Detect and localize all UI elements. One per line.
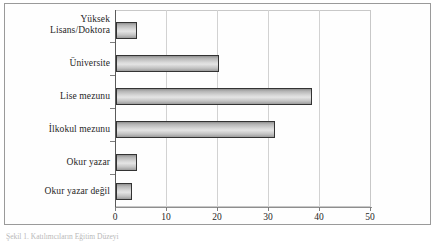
plot-area bbox=[115, 10, 371, 207]
x-axis-label-40: 40 bbox=[304, 212, 334, 222]
category-label-lise-mezunu: Lise mezunu bbox=[2, 91, 110, 102]
y-axis-tick bbox=[110, 141, 115, 142]
category-label-okur-yazar: Okur yazar bbox=[2, 157, 110, 168]
category-label-okur-yazar-degil: Okur yazar değil bbox=[2, 186, 110, 197]
gridline-10 bbox=[166, 10, 167, 207]
y-axis-tick bbox=[110, 75, 115, 76]
x-axis-label-10: 10 bbox=[151, 212, 181, 222]
x-axis-label-30: 30 bbox=[253, 212, 283, 222]
chart-page: Yüksek Lisans/Doktora Üniversite Lise me… bbox=[0, 0, 439, 247]
gridline-30 bbox=[268, 10, 269, 207]
y-axis-tick bbox=[110, 42, 115, 43]
x-axis-tick bbox=[268, 207, 269, 211]
y-axis-tick bbox=[110, 174, 115, 175]
y-axis-line bbox=[115, 10, 116, 208]
bar-universite bbox=[116, 55, 219, 72]
gridline-40 bbox=[319, 10, 320, 207]
bar-yuksek-lisans-doktora bbox=[116, 22, 137, 39]
horizontal-bar-chart: Yüksek Lisans/Doktora Üniversite Lise me… bbox=[0, 0, 439, 247]
x-axis-tick bbox=[319, 207, 320, 211]
x-axis-line bbox=[115, 207, 372, 208]
bar-okur-yazar bbox=[116, 154, 137, 171]
bar-lise-mezunu bbox=[116, 88, 312, 105]
x-axis-tick bbox=[217, 207, 218, 211]
y-axis-tick bbox=[110, 108, 115, 109]
category-label-ilkokul-mezunu: İlkokul mezunu bbox=[2, 124, 110, 135]
x-axis-tick bbox=[166, 207, 167, 211]
category-label-yuksek-lisans-doktora: Yüksek Lisans/Doktora bbox=[2, 14, 110, 36]
category-label-universite: Üniversite bbox=[2, 58, 110, 69]
gridline-20 bbox=[217, 10, 218, 207]
bar-ilkokul-mezunu bbox=[116, 121, 275, 138]
x-axis-tick bbox=[370, 207, 371, 211]
x-axis-label-20: 20 bbox=[202, 212, 232, 222]
x-axis-label-50: 50 bbox=[355, 212, 385, 222]
x-axis-label-0: 0 bbox=[100, 212, 130, 222]
bar-okur-yazar-degil bbox=[116, 183, 132, 200]
x-axis-tick bbox=[115, 207, 116, 211]
figure-caption: Şekil 1. Katılımcıların Eğitim Düzeyi bbox=[6, 232, 306, 246]
